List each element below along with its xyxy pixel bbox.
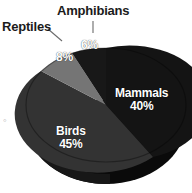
pie-label-amphibians: Amphibians xyxy=(57,4,129,17)
pie-value-birds: 45% xyxy=(56,138,86,151)
pie-value-mammals: 40% xyxy=(115,100,168,113)
pie-label-reptiles: Reptiles xyxy=(2,20,51,33)
pie-value-amphibians: 6% xyxy=(81,39,98,52)
scan-artifact: ° xyxy=(3,118,10,129)
pie-chart: Reptiles Amphibians 6% 8% Mammals 40% Bi… xyxy=(0,0,192,193)
pie-label-mammals-name: Mammals xyxy=(115,87,168,100)
pie-label-birds-name: Birds xyxy=(56,125,86,138)
pie-label-mammals: Mammals 40% xyxy=(115,87,168,114)
pie-value-reptiles: 8% xyxy=(56,51,73,64)
pie-label-birds: Birds 45% xyxy=(56,125,86,152)
